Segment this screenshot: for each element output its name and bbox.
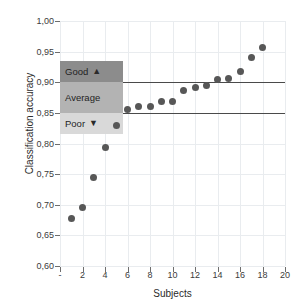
band-good: Good▲ (60, 61, 123, 82)
y-tick-label: 1,00 (0, 17, 54, 26)
x-tick-mark (83, 267, 84, 272)
x-tick-label: 14 (206, 271, 230, 280)
data-point (180, 87, 187, 94)
x-axis-title: Subjects (60, 288, 285, 299)
data-point (113, 122, 120, 129)
chart-container: Classification accuracy 0,600,650,700,75… (0, 0, 297, 308)
y-axis-title: Classification accuracy (24, 39, 35, 209)
x-tick-mark (173, 267, 174, 272)
x-tick-label: 20 (273, 271, 297, 280)
x-tick-mark (60, 267, 61, 272)
data-point (169, 98, 176, 105)
x-tick-mark (150, 267, 151, 272)
x-tick-label: 8 (138, 271, 162, 280)
x-tick-mark (195, 267, 196, 272)
gridline-horizontal (60, 235, 285, 236)
band-label: Poor (65, 118, 85, 129)
band-label: Average (65, 92, 100, 103)
x-tick-mark (105, 267, 106, 272)
y-tick-mark (55, 113, 60, 114)
data-point (102, 144, 109, 151)
y-tick-label: 0,85 (0, 109, 54, 118)
y-tick-mark (55, 144, 60, 145)
x-tick-mark (285, 267, 286, 272)
x-tick-label: 16 (228, 271, 252, 280)
gridline-horizontal (60, 21, 285, 22)
y-tick-label: 0,90 (0, 78, 54, 87)
band-average: Average (60, 82, 123, 113)
data-point (237, 68, 244, 75)
data-point (259, 44, 266, 51)
data-point (214, 76, 221, 83)
x-tick-label: 6 (116, 271, 140, 280)
x-tick-label: 18 (251, 271, 275, 280)
y-tick-mark (55, 82, 60, 83)
x-tick-mark (263, 267, 264, 272)
data-point (158, 98, 165, 105)
y-tick-mark (55, 205, 60, 206)
y-tick-label: 0,75 (0, 170, 54, 179)
x-tick-label: 12 (183, 271, 207, 280)
x-tick-mark (240, 267, 241, 272)
data-point (79, 204, 86, 211)
x-tick-label: 4 (93, 271, 117, 280)
y-tick-mark (55, 52, 60, 53)
data-point (192, 84, 199, 91)
gridline-vertical (285, 21, 286, 266)
x-tick-mark (218, 267, 219, 272)
data-point (90, 174, 97, 181)
y-tick-label: 0,70 (0, 201, 54, 210)
y-tick-mark (55, 235, 60, 236)
gridline-horizontal (60, 205, 285, 206)
plot-area: Good▲AveragePoor▼ (60, 21, 285, 266)
y-tick-label: 0,95 (0, 48, 54, 57)
x-tick-label: 2 (71, 271, 95, 280)
band-label: Good (65, 66, 88, 77)
y-tick-label: 0,80 (0, 140, 54, 149)
data-point (203, 82, 210, 89)
x-tick-mark (128, 267, 129, 272)
data-point (124, 106, 131, 113)
triangle-up-icon: ▲ (92, 67, 101, 76)
data-point (135, 103, 142, 110)
gridline-horizontal (60, 144, 285, 145)
y-tick-mark (55, 21, 60, 22)
gridline-horizontal (60, 52, 285, 53)
y-tick-mark (55, 174, 60, 175)
triangle-down-icon: ▼ (89, 119, 98, 128)
data-point (147, 103, 154, 110)
data-point (248, 54, 255, 61)
x-tick-label: 10 (161, 271, 185, 280)
data-point (68, 215, 75, 222)
y-tick-mark (55, 266, 60, 267)
y-tick-label: 0,60 (0, 262, 54, 271)
data-point (225, 75, 232, 82)
x-tick-label: - (48, 271, 72, 280)
y-tick-label: 0,65 (0, 231, 54, 240)
